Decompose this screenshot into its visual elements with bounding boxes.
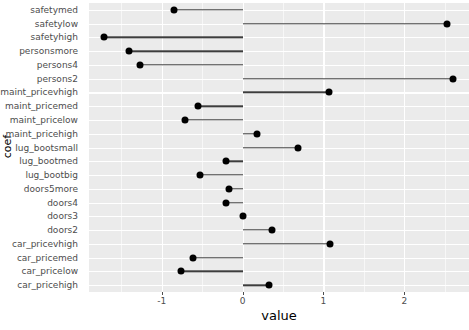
lollipop-stem (185, 119, 242, 120)
data-point[interactable] (170, 6, 177, 13)
lollipop-stem (140, 64, 243, 65)
data-point[interactable] (266, 282, 273, 289)
y-tick-label: safetymed (30, 5, 78, 15)
data-point[interactable] (295, 144, 302, 151)
gridline-major-horizontal (89, 106, 469, 107)
y-tick-label: safetylow (35, 19, 78, 29)
y-tick-label: car_pricelow (22, 266, 78, 276)
lollipop-stem (174, 9, 243, 10)
gridline-major-horizontal (89, 120, 469, 121)
data-point[interactable] (223, 158, 230, 165)
data-point[interactable] (326, 89, 333, 96)
y-tick-label: car_pricehigh (17, 280, 78, 290)
gridline-major-horizontal (89, 230, 469, 231)
data-point[interactable] (195, 103, 202, 110)
y-tick-label: lug_bootbig (25, 170, 78, 180)
y-tick-label: maint_pricelow (10, 115, 78, 125)
lollipop-stem (129, 50, 242, 51)
y-tick-label: doors3 (47, 211, 78, 221)
y-tick-label: doors5more (24, 184, 78, 194)
lollipop-stem (243, 92, 330, 93)
y-axis-tick-labels: safetymedsafetylowsafetyhighpersonsmorep… (16, 0, 83, 292)
lollipop-stem (181, 271, 242, 272)
data-point[interactable] (182, 116, 189, 123)
gridline-major-horizontal (89, 161, 469, 162)
gridline-major-horizontal (89, 134, 469, 135)
gridline-major-horizontal (89, 258, 469, 259)
y-tick-label: maint_pricemed (5, 101, 78, 111)
x-axis-title: value (89, 308, 469, 323)
x-tick-label: -1 (157, 296, 166, 306)
gridline-major-horizontal (89, 175, 469, 176)
lollipop-stem (104, 37, 243, 38)
y-tick-label: doors4 (47, 198, 78, 208)
data-point[interactable] (240, 213, 247, 220)
x-tick-label: 0 (240, 296, 246, 306)
lollipop-stem (200, 174, 243, 175)
data-point[interactable] (326, 240, 333, 247)
gridline-major-horizontal (89, 10, 469, 11)
lollipop-stem (193, 257, 242, 258)
y-tick-label: personsmore (19, 46, 78, 56)
data-point[interactable] (225, 185, 232, 192)
data-point[interactable] (136, 61, 143, 68)
data-point[interactable] (100, 34, 107, 41)
gridline-major-horizontal (89, 203, 469, 204)
x-tick-label: 1 (321, 296, 327, 306)
lollipop-chart: coef safetymedsafetylowsafetyhighpersons… (0, 0, 469, 330)
data-point[interactable] (223, 199, 230, 206)
data-point[interactable] (254, 130, 261, 137)
x-tick-mark (162, 292, 163, 295)
lollipop-stem (243, 243, 330, 244)
x-tick-mark (323, 292, 324, 295)
y-tick-label: lug_bootsmall (15, 143, 78, 153)
y-tick-label: car_pricevhigh (12, 239, 78, 249)
data-point[interactable] (178, 268, 185, 275)
data-point[interactable] (190, 254, 197, 261)
plot-panel (89, 3, 469, 292)
x-axis-ticks: -1012 (89, 292, 469, 308)
y-tick-label: maint_pricevhigh (0, 87, 78, 97)
data-point[interactable] (196, 172, 203, 179)
x-tick-mark (404, 292, 405, 295)
x-tick-label: 2 (401, 296, 407, 306)
gridline-major-horizontal (89, 189, 469, 190)
gridline-major-horizontal (89, 285, 469, 286)
y-tick-label: maint_pricehigh (5, 129, 78, 139)
gridline-major-horizontal (89, 271, 469, 272)
y-tick-label: safetyhigh (31, 32, 78, 42)
y-tick-label: car_pricemed (17, 253, 78, 263)
y-tick-label: persons4 (37, 60, 78, 70)
lollipop-stem (198, 106, 242, 107)
data-point[interactable] (444, 20, 451, 27)
gridline-major-horizontal (89, 216, 469, 217)
y-tick-label: persons2 (37, 74, 78, 84)
lollipop-stem (243, 147, 299, 148)
y-tick-label: doors2 (47, 225, 78, 235)
lollipop-stem (243, 23, 448, 24)
x-tick-mark (243, 292, 244, 295)
lollipop-stem (243, 78, 453, 79)
y-tick-label: lug_bootmed (19, 156, 78, 166)
data-point[interactable] (126, 48, 133, 55)
data-point[interactable] (268, 227, 275, 234)
data-point[interactable] (449, 75, 456, 82)
